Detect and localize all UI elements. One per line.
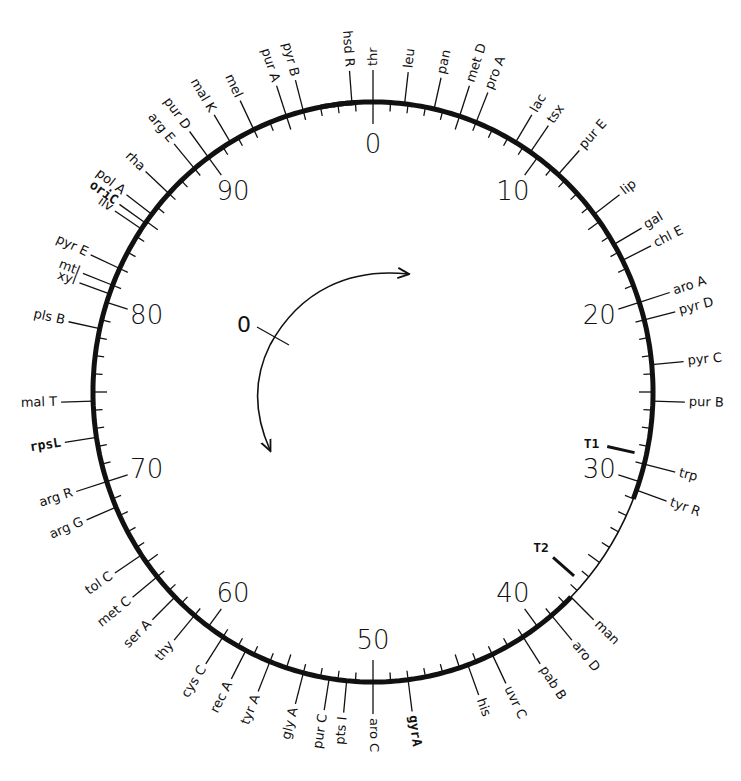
counterclockwise-arrow-icon <box>258 345 270 450</box>
gene-label: aro C <box>367 718 382 752</box>
gene-tick <box>133 577 158 597</box>
gene-tick <box>644 312 675 320</box>
minute-ticks <box>93 102 653 682</box>
minute-tick <box>618 475 639 482</box>
gene-tick <box>558 150 579 174</box>
gene-label: pur A <box>258 46 283 84</box>
gene-tick <box>571 597 594 620</box>
gene-label: aro A <box>671 273 708 298</box>
minute-tick <box>157 571 164 577</box>
terminator-label: T1 <box>584 436 600 451</box>
gene-tick <box>258 662 270 692</box>
minute-label: 70 <box>130 454 163 484</box>
gene-tick <box>530 126 548 152</box>
minute-label: 50 <box>356 625 389 655</box>
gene-label: man <box>592 617 623 648</box>
origin-tick <box>257 327 289 345</box>
gene-tick <box>83 273 113 285</box>
minute-tick <box>582 207 589 213</box>
gene-label: pur B <box>689 394 724 410</box>
gene-label: pyr E <box>54 231 91 259</box>
gene-tick <box>295 80 303 111</box>
minute-tick <box>643 374 652 375</box>
minute-tick <box>455 116 459 129</box>
minute-tick <box>588 554 599 562</box>
gene-label: uvr C <box>502 683 530 721</box>
gene-tick <box>636 490 666 501</box>
gene-label: pts I <box>332 716 350 745</box>
gene-label: pyr C <box>687 350 723 368</box>
gene-label: rha <box>123 148 149 174</box>
gene-tick <box>91 255 120 269</box>
minute-tick <box>208 609 221 627</box>
minute-tick <box>559 597 565 604</box>
gene-tick <box>434 78 441 109</box>
gene-label: pur C <box>310 713 330 750</box>
minute-tick <box>546 169 552 176</box>
gene-label: pyr B <box>280 41 303 78</box>
minute-tick <box>602 543 610 548</box>
gene-label: tol C <box>82 568 115 597</box>
minute-tick <box>390 672 391 681</box>
gene-label: tyr A <box>237 692 262 727</box>
gene-label: gal <box>641 209 666 232</box>
gene-label: thr <box>365 47 380 66</box>
gene-tick <box>594 195 619 215</box>
gene-label: pyr D <box>677 294 715 317</box>
minute-label: 30 <box>583 454 616 484</box>
minute-tick <box>286 654 290 667</box>
gene-label: lac <box>527 91 549 115</box>
minute-tick <box>169 584 176 590</box>
gene-tick <box>206 637 223 664</box>
gene-label: leu <box>400 47 417 68</box>
minute-tick <box>525 609 538 627</box>
minute-tick <box>525 157 538 175</box>
gene-tick <box>644 464 675 472</box>
gene-tick <box>652 362 684 365</box>
minute-tick <box>181 181 187 188</box>
gene-tick <box>622 246 651 261</box>
gene-tick <box>87 507 116 520</box>
minute-tick <box>559 181 565 188</box>
minute-tick <box>588 222 599 230</box>
gene-label: his <box>474 696 494 719</box>
gene-label: thy <box>152 638 177 664</box>
gene-tick <box>468 665 479 695</box>
minute-tick <box>571 584 578 590</box>
gene-tick <box>516 115 532 143</box>
replication-direction-arrows: 0 <box>237 273 408 450</box>
gene-label: rpsL <box>29 435 62 455</box>
gene-tick <box>115 211 141 229</box>
gene-tick <box>653 401 685 402</box>
minute-tick <box>390 103 391 112</box>
gene-label: pur E <box>576 116 610 152</box>
minute-tick <box>643 410 652 411</box>
terminator-mark <box>607 447 634 453</box>
gene-tick <box>214 115 230 143</box>
gene-tick <box>551 615 571 640</box>
gene-label: trp <box>677 465 699 484</box>
gene-label: cys C <box>178 663 209 700</box>
minute-tick <box>355 672 356 681</box>
gene-tick <box>119 204 145 223</box>
minute-tick <box>107 475 128 482</box>
terminator-mark <box>553 557 574 576</box>
origin-label: 0 <box>237 312 251 337</box>
gene-label: pan <box>434 48 454 75</box>
gene-tick <box>405 72 409 104</box>
gene-tick <box>115 555 141 573</box>
gene-label: tyr R <box>668 494 703 519</box>
minute-tick <box>618 512 626 516</box>
gene-tick <box>476 93 488 123</box>
minute-tick <box>546 609 552 616</box>
gene-tick <box>295 673 303 704</box>
minute-label: 10 <box>496 176 529 206</box>
gene-tick <box>152 597 175 620</box>
minute-tick <box>94 410 103 411</box>
gene-tick <box>324 678 329 710</box>
gene-label: mal K <box>188 75 220 115</box>
minute-label: 40 <box>496 578 529 608</box>
gene-tick <box>146 172 169 194</box>
minute-tick <box>146 222 157 230</box>
gene-tick <box>174 615 194 640</box>
